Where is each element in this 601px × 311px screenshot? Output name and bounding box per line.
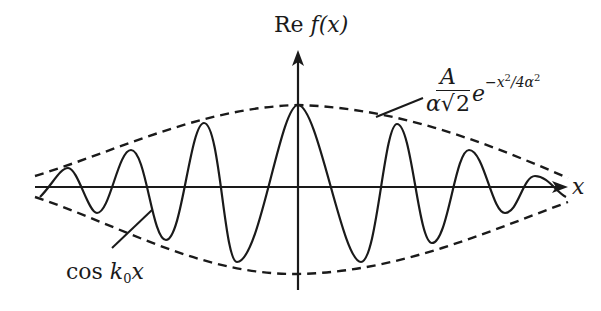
- carrier-label: cos k0x: [66, 261, 144, 285]
- carrier-label-k: k: [110, 259, 123, 284]
- envelope-numerator: A: [436, 66, 460, 91]
- envelope-den-sqrt-arg: 2: [455, 90, 470, 116]
- envelope-exponent: −x2/4α2: [485, 74, 540, 90]
- envelope-label: A α√2 e−x2/4α2: [426, 66, 540, 115]
- envelope-upper-dashed-curve: [35, 105, 568, 178]
- envelope-exp-sq2: 2: [534, 72, 540, 83]
- envelope-exp-mid: /4α: [511, 74, 534, 90]
- y-axis-label-prefix: Re: [274, 12, 304, 37]
- envelope-fraction: A α√2: [426, 66, 470, 115]
- envelope-leader-line: [376, 98, 423, 117]
- y-axis-label-func: f(x): [311, 12, 349, 37]
- y-axis-label: Re f(x): [274, 14, 348, 36]
- envelope-exponential: e−x2/4α2: [472, 73, 541, 105]
- carrier-label-prefix: cos: [66, 259, 103, 284]
- envelope-exp-text: −x: [485, 74, 505, 90]
- carrier-wave-curve: [40, 105, 566, 262]
- x-axis-label: x: [572, 176, 584, 198]
- envelope-exp-base: e: [472, 81, 485, 106]
- envelope-den-alpha: α: [426, 91, 441, 116]
- carrier-label-var: x: [131, 259, 143, 284]
- carrier-leader-line: [112, 210, 152, 248]
- sqrt-icon: √: [441, 91, 455, 116]
- envelope-denominator: α√2: [426, 91, 470, 115]
